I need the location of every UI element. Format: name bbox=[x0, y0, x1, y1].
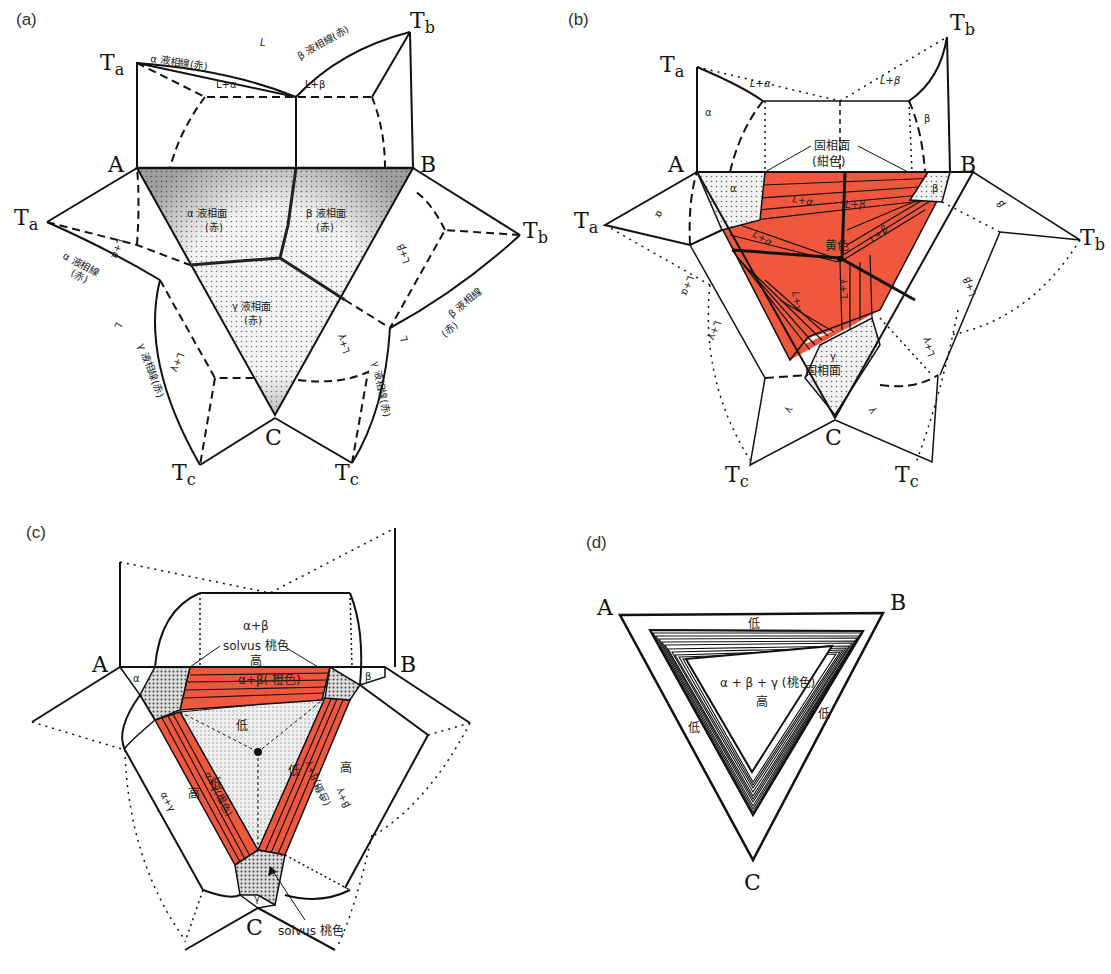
svg-text:α+β( 橙色): α+β( 橙色) bbox=[238, 672, 301, 687]
svg-text:L+α: L+α bbox=[109, 237, 127, 260]
panel-c-diagram: A B C α+β solvus 桃色 高 α+β( 橙色) α β 低 低 低… bbox=[0, 510, 560, 974]
svg-text:α: α bbox=[730, 183, 737, 194]
svg-text:α: α bbox=[705, 107, 712, 118]
alpha-solidus-patch bbox=[697, 172, 765, 230]
svg-text:γ: γ bbox=[830, 351, 836, 362]
ternary-eutectic-point bbox=[254, 748, 262, 756]
vertex-Tc-right: Tc bbox=[895, 462, 919, 490]
svg-text:L+α: L+α bbox=[679, 274, 697, 297]
vertex-Tb-top: Tb bbox=[950, 10, 975, 39]
svg-text:γ 液相線(赤): γ 液相線(赤) bbox=[136, 342, 167, 400]
vertex-C: C bbox=[744, 870, 761, 895]
panel-a-diagram: Ta Tb A B Ta Tb C Tc Tc L α 液相線(赤) β 液相線… bbox=[0, 0, 560, 490]
svg-text:β: β bbox=[365, 671, 371, 682]
svg-text:β 液相線(赤): β 液相線(赤) bbox=[295, 23, 351, 62]
center-label: α + β + γ (桃色) bbox=[720, 675, 815, 690]
vertex-Ta-top: Ta bbox=[660, 52, 685, 81]
svg-text:α: α bbox=[133, 673, 140, 684]
svg-text:(赤): (赤) bbox=[316, 222, 334, 233]
vertex-Ta-top: Ta bbox=[100, 50, 125, 79]
vertex-B: B bbox=[960, 152, 976, 177]
vertex-B: B bbox=[400, 652, 416, 677]
svg-text:L+γ: L+γ bbox=[335, 333, 352, 356]
solvus-label-bottom: solvus 桃色 bbox=[278, 923, 344, 938]
svg-text:高: 高 bbox=[188, 786, 200, 801]
svg-text:β: β bbox=[924, 113, 930, 124]
svg-text:α 液相線(赤): α 液相線(赤) bbox=[150, 52, 209, 72]
svg-text:γ: γ bbox=[783, 405, 796, 416]
svg-text:L+γ: L+γ bbox=[706, 319, 723, 342]
svg-text:低: 低 bbox=[236, 719, 248, 733]
gamma-solidus-label: 固相面 bbox=[805, 364, 841, 378]
svg-text:高: 高 bbox=[756, 694, 768, 709]
svg-text:L+α: L+α bbox=[216, 79, 237, 90]
svg-text:β: β bbox=[932, 183, 938, 194]
vertex-C: C bbox=[825, 425, 842, 450]
vertex-Ta-left: Ta bbox=[14, 205, 39, 234]
vertex-B: B bbox=[420, 152, 436, 177]
svg-text:低: 低 bbox=[688, 721, 700, 735]
vertex-Tb-right: Tb bbox=[1080, 225, 1105, 254]
svg-text:L+α: L+α bbox=[750, 78, 771, 89]
vertex-A: A bbox=[91, 652, 109, 677]
svg-text:α+γ: α+γ bbox=[158, 790, 178, 814]
vertex-A: A bbox=[596, 595, 614, 620]
svg-text:(紺色): (紺色) bbox=[812, 154, 845, 169]
svg-text:L: L bbox=[260, 37, 266, 48]
vertex-Tc-right: Tc bbox=[335, 460, 359, 489]
vertex-C: C bbox=[246, 915, 263, 940]
svg-text:β+γ: β+γ bbox=[333, 786, 352, 809]
svg-text:低: 低 bbox=[748, 617, 760, 631]
ternary-eutectic-yellow: 黄色 bbox=[825, 239, 849, 253]
svg-text:γ 液相線(赤): γ 液相線(赤) bbox=[370, 360, 394, 418]
svg-text:β: β bbox=[994, 198, 1007, 209]
vertex-A: A bbox=[667, 152, 685, 177]
svg-text:α: α bbox=[653, 209, 666, 221]
vertex-A: A bbox=[107, 152, 125, 177]
solvus-label-top: solvus 桃色 bbox=[223, 638, 289, 653]
panel-b-diagram: Ta Tb A B Ta Tb C Tc Tc L+α L+β α β 固相面 … bbox=[560, 0, 1111, 490]
vertex-Ta-left: Ta bbox=[574, 208, 599, 237]
svg-text:α+β: α+β bbox=[243, 619, 269, 633]
svg-text:L+β: L+β bbox=[845, 199, 866, 210]
vertex-Tb-top: Tb bbox=[410, 8, 435, 37]
panel-b: (b) bbox=[560, 0, 1111, 490]
svg-text:高: 高 bbox=[340, 760, 352, 775]
svg-text:L: L bbox=[112, 321, 124, 330]
vertex-B: B bbox=[890, 590, 906, 615]
svg-text:(赤): (赤) bbox=[439, 320, 460, 340]
vertex-C: C bbox=[265, 425, 282, 450]
panel-d-diagram: A B C 低 α + β + γ (桃色) 高 低 低 bbox=[560, 520, 1111, 900]
svg-text:γ: γ bbox=[254, 893, 260, 904]
svg-text:L: L bbox=[398, 334, 410, 343]
vertex-Tb-right: Tb bbox=[523, 218, 548, 247]
svg-text:低: 低 bbox=[818, 707, 830, 721]
panel-c: (c) bbox=[0, 510, 560, 974]
svg-text:L+β: L+β bbox=[961, 275, 978, 298]
svg-text:高: 高 bbox=[250, 653, 262, 668]
panel-a: (a) bbox=[0, 0, 560, 490]
svg-text:L+γ: L+γ bbox=[920, 336, 937, 359]
svg-text:低: 低 bbox=[288, 764, 300, 778]
svg-text:γ 液相面: γ 液相面 bbox=[232, 300, 271, 312]
svg-text:L+β: L+β bbox=[395, 242, 412, 265]
panel-d: (d) A B C 低 α + β + γ (桃色) 高 低 低 bbox=[560, 520, 1111, 900]
svg-text:(赤): (赤) bbox=[205, 222, 223, 233]
vertex-Tc-left: Tc bbox=[172, 460, 196, 489]
svg-text:α 液相面: α 液相面 bbox=[187, 207, 227, 219]
svg-text:β 液相面: β 液相面 bbox=[306, 207, 346, 219]
svg-text:(赤): (赤) bbox=[244, 315, 262, 326]
svg-text:L+γ: L+γ bbox=[169, 351, 186, 374]
solidus-label: 固相面 bbox=[814, 139, 850, 153]
vertex-Tc-left: Tc bbox=[725, 462, 749, 490]
svg-text:L+β: L+β bbox=[880, 75, 901, 86]
svg-text:γ: γ bbox=[865, 406, 878, 417]
svg-text:L+β: L+β bbox=[305, 79, 325, 90]
